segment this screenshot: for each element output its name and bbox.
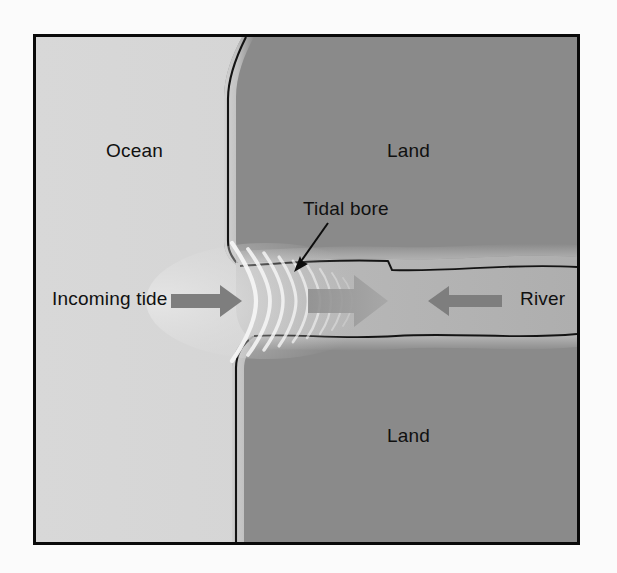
label-tidal-bore: Tidal bore xyxy=(303,199,389,218)
label-land-north: Land xyxy=(387,141,430,160)
label-incoming-tide: Incoming tide xyxy=(52,289,168,308)
label-river: River xyxy=(520,289,565,308)
label-land-south: Land xyxy=(387,426,430,445)
label-ocean: Ocean xyxy=(106,141,163,160)
figure-container: Ocean Land Land Tidal bore Incoming tide… xyxy=(0,0,617,573)
diagram-frame: Ocean Land Land Tidal bore Incoming tide… xyxy=(33,34,580,545)
